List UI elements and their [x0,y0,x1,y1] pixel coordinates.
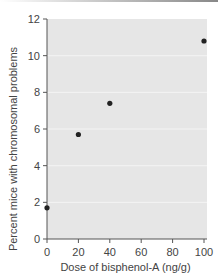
x-tick-label: 40 [104,246,116,258]
y-tick-label: 4 [34,160,40,172]
y-tick-label: 8 [34,86,40,98]
x-tick-label: 60 [135,246,147,258]
x-tick-label: 0 [44,246,50,258]
y-tick-label: 12 [28,13,40,25]
y-axis-label: Percent mice with chromosomal problems [7,46,19,251]
data-point [107,101,112,106]
y-tick-label: 10 [28,50,40,62]
x-tick-label: 100 [195,246,213,258]
y-tick-label: 2 [34,196,40,208]
x-tick-label: 80 [166,246,178,258]
scatter-chart: 024681012020406080100Dose of bisphenol-A… [0,0,218,279]
data-point [44,205,49,210]
data-point [201,38,206,43]
y-tick-label: 6 [34,123,40,135]
x-tick-label: 20 [72,246,84,258]
y-tick-label: 0 [34,233,40,245]
x-axis-label: Dose of bisphenol-A (ng/g) [60,261,190,273]
data-point [76,132,81,137]
